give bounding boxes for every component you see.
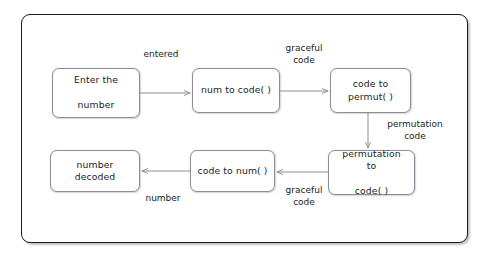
edge-label-graceful-bottom-line2: code [293,197,315,207]
edge-label-entered: entered [134,48,188,60]
edge-label-number: number [136,192,190,204]
diagram-canvas: Enter thenumber num to code( ) code to p… [0,0,490,256]
edge-label-graceful-code-bottom: graceful code [276,184,332,208]
node-code-to-permut-label: code to permut( ) [331,78,410,103]
node-code-to-permut[interactable]: code to permut( ) [330,68,411,113]
node-enter-label: Enter thenumber [66,74,126,112]
node-num-to-code-label: num to code( ) [197,84,275,97]
node-number-decoded-label: number decoded [51,159,139,184]
edge-label-permutation-code: permutation code [379,118,451,142]
edge-label-permutation-code-line2: code [404,131,426,141]
edge-label-number-text: number [145,193,180,203]
node-enter-the-number[interactable]: Enter thenumber [52,68,140,118]
edge-label-graceful-code-top: graceful code [276,42,332,66]
node-code-to-num-label: code to num( ) [193,165,271,178]
edge-label-graceful-bottom-line1: graceful [286,185,323,195]
edge-label-graceful-top-line1: graceful [286,43,323,53]
node-code-to-num[interactable]: code to num( ) [190,150,275,192]
node-permutation-to-code[interactable]: permutation tocode( ) [328,150,415,195]
node-number-decoded[interactable]: number decoded [50,150,140,192]
edge-label-graceful-top-line2: code [293,55,315,65]
node-num-to-code[interactable]: num to code( ) [192,68,280,113]
node-permutation-to-code-label: permutation tocode( ) [329,148,414,198]
edge-label-entered-text: entered [143,49,178,59]
edge-label-permutation-code-line1: permutation [387,119,443,129]
